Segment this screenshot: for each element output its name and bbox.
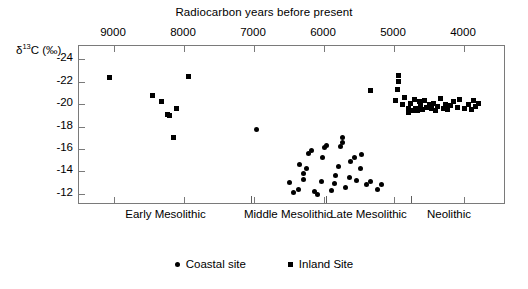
data-point-coastal xyxy=(338,144,343,149)
data-point-coastal xyxy=(336,164,341,169)
x-axis-tick-top xyxy=(254,46,255,52)
data-point-coastal xyxy=(343,185,348,190)
data-point-inland xyxy=(451,99,456,104)
data-point-inland xyxy=(368,88,373,93)
data-point-inland xyxy=(455,105,460,110)
data-point-inland xyxy=(107,75,112,80)
data-point-inland xyxy=(395,87,400,92)
chart-root: Radiocarbon years before present δ13C (‰… xyxy=(0,0,528,289)
data-point-inland xyxy=(174,106,179,111)
data-point-inland xyxy=(457,97,462,102)
data-point-coastal xyxy=(254,127,259,132)
data-point-coastal xyxy=(379,182,384,187)
x-axis-tick-bottom xyxy=(394,197,395,203)
data-point-inland xyxy=(400,102,405,107)
x-axis-tick-top xyxy=(114,46,115,52)
data-point-inland xyxy=(462,106,467,111)
plot-area xyxy=(78,45,505,204)
data-point-coastal xyxy=(320,155,325,160)
data-point-inland xyxy=(445,107,450,112)
data-point-inland xyxy=(443,102,448,107)
data-point-coastal xyxy=(315,192,320,197)
data-point-coastal xyxy=(324,143,329,148)
data-point-inland xyxy=(150,93,155,98)
data-point-inland xyxy=(435,104,440,109)
data-point-coastal xyxy=(291,190,296,195)
period-label: Neolithic xyxy=(394,208,504,221)
y-axis-tick xyxy=(79,127,85,128)
period-boundary-tick xyxy=(326,196,327,203)
data-point-inland xyxy=(438,96,443,101)
chart-legend: Coastal site Inland Site xyxy=(0,258,528,270)
data-point-inland xyxy=(396,79,401,84)
period-label: Early Mesolithic xyxy=(111,208,221,221)
y-axis-tick-label: -24 xyxy=(33,52,73,64)
circle-marker-icon xyxy=(175,262,180,267)
y-axis-tick xyxy=(79,171,85,172)
data-point-inland xyxy=(476,101,481,106)
y-axis-tick-label: -16 xyxy=(33,142,73,154)
data-point-coastal xyxy=(340,140,345,145)
data-point-coastal xyxy=(329,188,334,193)
data-point-inland xyxy=(167,113,172,118)
data-point-coastal xyxy=(333,173,338,178)
x-axis-tick-label: 5000 xyxy=(363,26,423,38)
y-axis-tick xyxy=(79,149,85,150)
period-boundary-tick xyxy=(411,196,412,203)
data-point-coastal xyxy=(368,179,373,184)
data-point-coastal xyxy=(296,187,301,192)
data-point-coastal xyxy=(297,162,302,167)
y-axis-tick-label: -22 xyxy=(33,75,73,87)
x-axis-tick-bottom xyxy=(464,197,465,203)
data-point-coastal xyxy=(301,177,306,182)
x-axis-tick-top xyxy=(464,46,465,52)
x-axis-tick-bottom xyxy=(184,197,185,203)
data-point-inland xyxy=(171,135,176,140)
data-point-inland xyxy=(186,74,191,79)
legend-item-inland: Inland Site xyxy=(288,258,353,270)
x-axis-tick-top xyxy=(324,46,325,52)
y-axis-tick-label: -14 xyxy=(33,164,73,176)
period-boundary-tick xyxy=(251,196,252,203)
x-axis-tick-label: 7000 xyxy=(223,26,283,38)
data-point-coastal xyxy=(319,179,324,184)
y-axis-tick-label: -12 xyxy=(33,187,73,199)
data-point-inland xyxy=(466,102,471,107)
x-axis-tick-top xyxy=(394,46,395,52)
y-axis-tick-label: -20 xyxy=(33,97,73,109)
y-axis-tick xyxy=(79,59,85,60)
data-point-inland xyxy=(396,73,401,78)
data-point-coastal xyxy=(304,166,309,171)
x-axis-tick-bottom xyxy=(324,197,325,203)
x-axis-tick-label: 4000 xyxy=(433,26,493,38)
square-marker-icon xyxy=(288,262,293,267)
x-axis-tick-bottom xyxy=(114,197,115,203)
data-point-inland xyxy=(393,98,398,103)
data-point-coastal xyxy=(301,171,306,176)
y-axis-tick xyxy=(79,82,85,83)
y-axis-tick xyxy=(79,194,85,195)
x-axis-tick-label: 8000 xyxy=(153,26,213,38)
data-point-coastal xyxy=(309,148,314,153)
legend-label-inland: Inland Site xyxy=(299,258,353,270)
y-axis-tick-label: -18 xyxy=(33,120,73,132)
data-point-coastal xyxy=(332,181,337,186)
x-axis-tick-label: 9000 xyxy=(83,26,143,38)
data-point-coastal xyxy=(340,135,345,140)
legend-item-coastal: Coastal site xyxy=(175,258,246,270)
chart-title: Radiocarbon years before present xyxy=(0,6,528,18)
x-axis-tick-top xyxy=(184,46,185,52)
data-point-coastal xyxy=(358,166,363,171)
data-point-inland xyxy=(433,108,438,113)
data-point-coastal xyxy=(375,187,380,192)
data-point-coastal xyxy=(359,152,364,157)
data-point-coastal xyxy=(347,175,352,180)
data-point-coastal xyxy=(354,178,359,183)
data-point-inland xyxy=(159,99,164,104)
y-axis-tick xyxy=(79,104,85,105)
x-axis-tick-bottom xyxy=(254,197,255,203)
legend-label-coastal: Coastal site xyxy=(186,258,246,270)
data-point-coastal xyxy=(287,180,292,185)
x-axis-tick-label: 6000 xyxy=(293,26,353,38)
data-point-inland xyxy=(402,95,407,100)
